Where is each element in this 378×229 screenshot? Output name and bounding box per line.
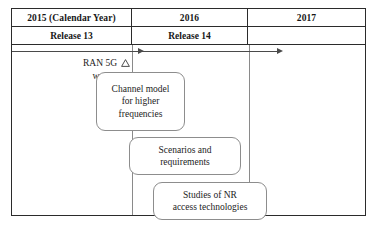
activity-box-studies-nr-access-text: Studies of NR access technologies [173, 189, 248, 214]
activity-box-scenarios-requirements-line2: requirements [158, 156, 211, 169]
ran-5g-workshop-line1-row: RAN 5G [54, 57, 130, 70]
activity-box-channel-model-line1: Channel model [112, 83, 170, 96]
timeline-table: 2015 (Calendar Year) 2016 2017 Release 1… [11, 8, 366, 216]
release-header-empty [248, 27, 365, 44]
year-header-2017-label: 2017 [297, 13, 316, 23]
release-14-arrow-head [277, 48, 283, 54]
ran-5g-workshop-line1: RAN 5G [83, 57, 117, 70]
release-header-14: Release 14 [132, 27, 248, 44]
activity-box-channel-model-text: Channel model for higher frequencies [112, 83, 170, 121]
activity-box-scenarios-requirements-line1: Scenarios and [158, 144, 211, 157]
year-header-row: 2015 (Calendar Year) 2016 2017 [12, 9, 365, 27]
triangle-marker-icon [121, 59, 130, 67]
release-header-row: Release 13 Release 14 [12, 27, 365, 45]
year-header-2016: 2016 [132, 9, 248, 26]
year-header-2015: 2015 (Calendar Year) [12, 9, 132, 26]
release-header-13: Release 13 [12, 27, 132, 44]
timeline-body: RAN 5G workshop Channel model for higher… [12, 45, 365, 215]
activity-box-channel-model: Channel model for higher frequencies [96, 72, 185, 131]
year-header-2015-label: 2015 (Calendar Year) [27, 13, 116, 23]
release-header-14-label: Release 14 [168, 31, 210, 41]
year-header-2017: 2017 [248, 9, 365, 26]
activity-box-studies-nr-access-line1: Studies of NR [173, 189, 248, 202]
release-13-arrow-line [12, 51, 140, 52]
year-header-2016-label: 2016 [180, 13, 199, 23]
activity-box-scenarios-requirements: Scenarios and requirements [129, 137, 241, 175]
activity-box-studies-nr-access-line2: access technologies [173, 201, 248, 214]
release-header-13-label: Release 13 [50, 31, 92, 41]
release-14-arrow-line [132, 51, 279, 52]
activity-box-channel-model-line2: for higher [112, 95, 170, 108]
activity-box-studies-nr-access: Studies of NR access technologies [153, 182, 267, 220]
activity-box-channel-model-line3: frequencies [112, 108, 170, 121]
activity-box-scenarios-requirements-text: Scenarios and requirements [158, 144, 211, 169]
